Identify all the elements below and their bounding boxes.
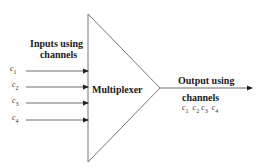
inputs-label: Inputs using channels	[30, 38, 83, 60]
output-label-line1: Output using	[178, 75, 234, 86]
multiplexer-label: Multiplexer	[92, 84, 143, 95]
output-label-line2: channels	[182, 92, 219, 103]
output-label-c4: c4	[212, 103, 219, 112]
output-label-c3: c3	[201, 103, 208, 112]
output-label-c1: c1	[182, 103, 189, 112]
output-label-c2: c2	[193, 103, 200, 112]
inputs-label-line2: channels	[30, 49, 83, 60]
input-label-c2: c2	[12, 80, 19, 91]
input-label-c3: c3	[12, 96, 19, 107]
input-label-c1: c1	[10, 64, 17, 75]
inputs-label-line1: Inputs using	[30, 38, 83, 49]
output-channel-labels: c1 c2 c3 c4	[182, 103, 218, 114]
input-label-c4: c4	[12, 113, 19, 124]
